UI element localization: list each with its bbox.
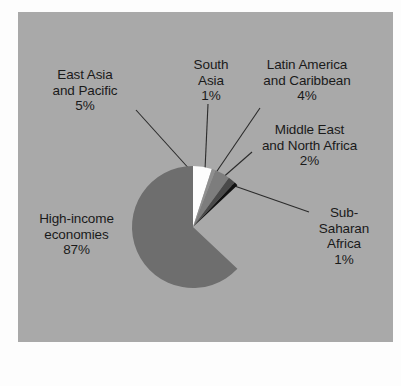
pie-label-sub-saharan-percent: 1% (307, 252, 381, 268)
pie-label-east-asia-line2: and Pacific (53, 83, 118, 98)
pie-label-latin-america-line2: and Caribbean (263, 73, 350, 88)
pie-label-sub-saharan-line1: Sub- (330, 205, 358, 220)
pie-label-sub-saharan-africa: Sub- Saharan Africa 1% (307, 205, 381, 267)
leader-line-south-asia (205, 104, 208, 170)
pie-label-middle-east-percent: 2% (243, 153, 376, 169)
pie-label-latin-america-percent: 4% (245, 88, 369, 104)
pie-label-middle-east-and-north-africa: Middle East and North Africa 2% (243, 122, 376, 169)
pie-label-latin-america-line1: Latin America (267, 57, 348, 72)
pie-label-high-income-percent: 87% (20, 242, 133, 258)
pie-label-south-asia-line1: South (194, 57, 229, 72)
pie-label-south-asia-line2: Asia (198, 73, 224, 88)
pie-label-east-asia-line1: East Asia (57, 67, 112, 82)
pie-slices (132, 166, 237, 288)
leader-line-sub-saharan (226, 183, 309, 212)
pie-label-south-asia: South Asia 1% (180, 57, 242, 104)
pie-label-middle-east-line1: Middle East (275, 122, 344, 137)
pie-label-sub-saharan-line3: Africa (327, 236, 361, 251)
pie-label-latin-america-and-caribbean: Latin America and Caribbean 4% (245, 57, 369, 104)
pie-label-east-asia-and-pacific: East Asia and Pacific 5% (27, 67, 143, 114)
pie-label-high-income-line2: economies (44, 227, 108, 242)
leader-line-east-asia (136, 110, 192, 172)
pie-label-high-income-line1: High-income (39, 211, 114, 226)
pie-label-south-asia-percent: 1% (180, 88, 242, 104)
pie-chart-page: East Asia and Pacific 5% South Asia 1% L… (0, 0, 401, 386)
pie-label-east-asia-percent: 5% (27, 98, 143, 114)
pie-label-middle-east-line2: and North Africa (262, 138, 357, 153)
pie-label-sub-saharan-line2: Saharan (319, 221, 369, 236)
pie-label-high-income-economies: High-income economies 87% (20, 211, 133, 258)
